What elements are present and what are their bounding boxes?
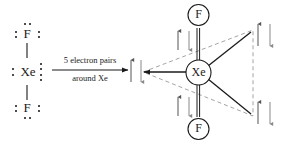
- geometry-structure: [0, 0, 282, 144]
- diagram-canvas: F Xe F 5 electron pairs around Xe: [0, 0, 282, 144]
- electron-pair-arrows-equatorial-left: [131, 60, 141, 82]
- geometry-atom-f-bottom: F: [190, 122, 207, 134]
- electron-pair-arrows-axial-bottom: [178, 97, 189, 116]
- geometry-atom-f-top: F: [190, 8, 207, 20]
- electron-pair-arrows-axial-top: [178, 31, 189, 50]
- equatorial-vector-lower-right: [208, 79, 251, 114]
- geometry-atom-xe: Xe: [189, 66, 208, 78]
- equatorial-vector-upper-right: [208, 32, 251, 66]
- electron-pair-arrows-equatorial-lower-right: [258, 102, 270, 124]
- electron-pair-arrows-equatorial-upper-right: [258, 24, 270, 46]
